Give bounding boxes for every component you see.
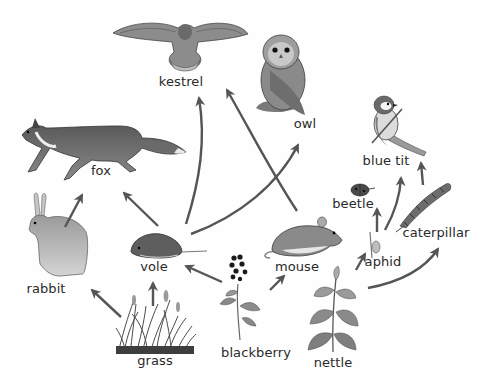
food-web-arrows — [0, 0, 487, 382]
arrow-caterpillar-to-blue-tit — [421, 163, 423, 185]
arrow-vole-to-kestrel — [186, 98, 202, 224]
label-owl: owl — [294, 116, 317, 131]
label-aphid: aphid — [365, 254, 402, 269]
label-fox: fox — [91, 163, 111, 178]
arrow-vole-to-fox — [124, 193, 158, 226]
label-blackberry: blackberry — [221, 345, 291, 360]
label-blue-tit: blue tit — [363, 153, 410, 168]
label-caterpillar: caterpillar — [402, 225, 469, 240]
arrow-aphid-to-blue-tit — [385, 178, 401, 230]
arrow-blackberry-to-vole — [186, 266, 222, 282]
arrow-grass-to-rabbit — [92, 290, 121, 317]
label-beetle: beetle — [332, 196, 374, 211]
arrow-vole-to-owl — [191, 145, 298, 234]
label-grass: grass — [137, 353, 173, 368]
label-nettle: nettle — [314, 355, 353, 370]
label-kestrel: kestrel — [159, 74, 203, 89]
label-vole: vole — [140, 259, 168, 274]
food-web-diagram: kestrel owl fox blue tit beetle caterpil… — [0, 0, 487, 382]
label-rabbit: rabbit — [26, 281, 65, 296]
arrow-blackberry-to-mouse — [270, 276, 284, 290]
label-mouse: mouse — [275, 259, 319, 274]
arrow-rabbit-to-fox — [65, 195, 82, 227]
